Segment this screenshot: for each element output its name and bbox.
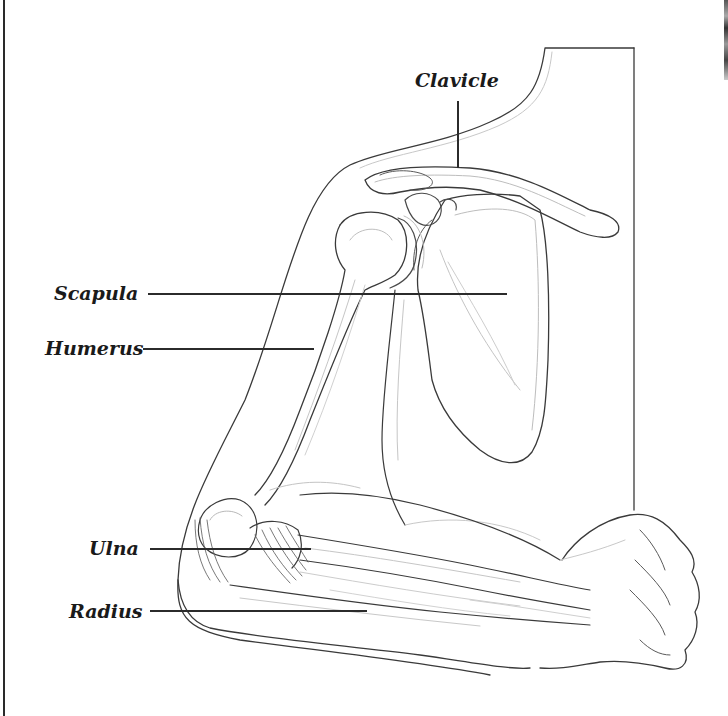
- scapula-bone: [414, 194, 549, 463]
- elbow-joint: [195, 499, 308, 583]
- upper-arm-soft-tissue: [270, 290, 560, 560]
- label-clavicle: Clavicle: [415, 71, 499, 90]
- leader-line-scapula: [148, 293, 507, 295]
- leader-line-clavicle: [457, 101, 459, 168]
- leader-line-radius: [150, 610, 367, 612]
- label-radius: Radius: [69, 602, 143, 621]
- leader-line-humerus: [143, 348, 314, 350]
- label-scapula: Scapula: [54, 284, 138, 303]
- anatomy-diagram: Clavicle Scapula Humerus Ulna Radius: [0, 0, 728, 716]
- humerus-bone: [255, 212, 424, 505]
- leader-line-ulna: [150, 548, 311, 550]
- clenched-fist: [470, 514, 699, 669]
- label-ulna: Ulna: [89, 539, 139, 558]
- body-outline: [178, 48, 634, 675]
- label-humerus: Humerus: [45, 339, 143, 358]
